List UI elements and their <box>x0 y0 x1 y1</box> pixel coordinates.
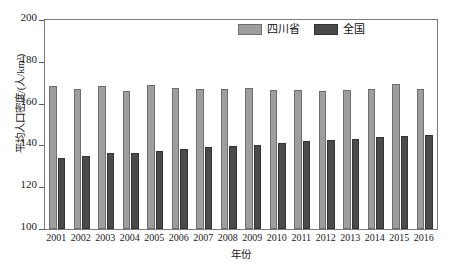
population-density-bar-chart: 100120140160180200 平均人口密度/(人/km²) 200120… <box>0 0 454 267</box>
bar-sichuan-2009 <box>245 88 253 229</box>
x-axis-tick-label: 2008 <box>218 232 238 244</box>
bar-sichuan-2001 <box>49 86 57 229</box>
chart-legend: 四川省 全国 <box>238 24 365 35</box>
bar-national-2001 <box>58 158 66 229</box>
bars-layer <box>45 20 437 229</box>
bar-sichuan-2016 <box>417 89 425 229</box>
bar-sichuan-2006 <box>172 88 180 229</box>
legend-label-national: 全国 <box>343 24 365 35</box>
bar-sichuan-2010 <box>270 90 278 229</box>
x-axis-tick-label: 2013 <box>340 232 360 244</box>
bar-sichuan-2014 <box>368 89 376 229</box>
bar-sichuan-2013 <box>343 90 351 229</box>
bar-national-2015 <box>401 136 409 229</box>
x-axis-title: 年份 <box>44 246 438 261</box>
bar-sichuan-2011 <box>294 90 302 229</box>
bar-sichuan-2012 <box>319 91 327 229</box>
legend-entry-national[interactable]: 全国 <box>314 24 365 35</box>
bar-sichuan-2015 <box>392 84 400 229</box>
legend-label-sichuan: 四川省 <box>267 24 300 35</box>
x-axis-tick-label: 2010 <box>267 232 287 244</box>
bar-sichuan-2008 <box>221 89 229 229</box>
legend-entry-sichuan[interactable]: 四川省 <box>238 24 300 35</box>
bar-sichuan-2005 <box>147 85 155 229</box>
x-axis-tick-label: 2011 <box>291 232 311 244</box>
y-axis-tick-mark <box>39 187 44 188</box>
x-axis-tick-label: 2014 <box>365 232 385 244</box>
bar-national-2010 <box>278 143 286 229</box>
x-axis-tick-label: 2003 <box>95 232 115 244</box>
bar-national-2007 <box>205 147 213 229</box>
x-axis-tick-label: 2002 <box>71 232 91 244</box>
y-axis-tick-label: 100 <box>21 221 38 232</box>
bar-national-2004 <box>131 153 139 229</box>
national-swatch-icon <box>314 24 338 35</box>
x-axis-tick-label: 2007 <box>193 232 213 244</box>
y-axis-tick-mark <box>39 20 44 21</box>
x-axis-tick-label: 2006 <box>169 232 189 244</box>
bar-sichuan-2007 <box>196 89 204 229</box>
x-axis-tick-label: 2012 <box>316 232 336 244</box>
bar-national-2014 <box>376 137 384 229</box>
x-axis-tick-label: 2015 <box>389 232 409 244</box>
y-axis-tick-mark <box>39 145 44 146</box>
y-axis-tick-label: 200 <box>21 12 38 23</box>
x-axis-tick-label: 2005 <box>144 232 164 244</box>
bar-national-2016 <box>425 135 433 229</box>
bar-national-2003 <box>107 153 115 229</box>
x-axis-tick-label: 2001 <box>46 232 66 244</box>
x-axis-tick-label: 2016 <box>414 232 434 244</box>
bar-national-2005 <box>156 151 164 229</box>
bar-national-2011 <box>303 141 311 229</box>
bar-national-2006 <box>180 149 188 229</box>
y-axis-tick-mark <box>39 229 44 230</box>
y-axis-tick-mark <box>39 62 44 63</box>
x-axis: 2001200220032004200520062007200820092010… <box>44 232 438 246</box>
bar-sichuan-2004 <box>123 91 131 229</box>
sichuan-swatch-icon <box>238 24 262 35</box>
x-axis-tick-label: 2009 <box>242 232 262 244</box>
bar-sichuan-2003 <box>98 86 106 229</box>
bar-national-2009 <box>254 145 262 229</box>
y-axis-title: 平均人口密度/(人/km²) <box>12 24 27 184</box>
bar-national-2008 <box>229 146 237 229</box>
bar-national-2013 <box>352 139 360 229</box>
bar-national-2002 <box>82 156 90 229</box>
x-axis-tick-label: 2004 <box>120 232 140 244</box>
bar-national-2012 <box>327 140 335 229</box>
y-axis-tick-mark <box>39 104 44 105</box>
bar-sichuan-2002 <box>74 89 82 229</box>
